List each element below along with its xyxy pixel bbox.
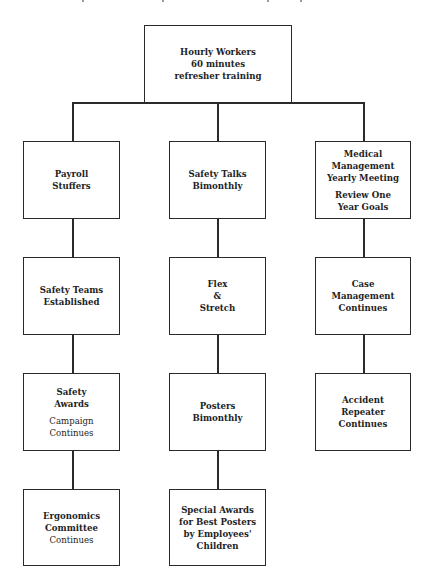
box-line: refresher training	[175, 70, 262, 82]
box-line: Accident	[342, 394, 384, 406]
box-text: Accident Repeater Continues	[339, 394, 388, 430]
box-line: Campaign	[49, 415, 93, 427]
connector-left-2-3	[72, 334, 74, 374]
box-line: 60 minutes	[191, 58, 245, 70]
box-text: Ergonomics Committee Continues	[43, 510, 100, 546]
connector-middle-1-2	[217, 218, 219, 258]
box-line: Stretch	[200, 302, 236, 314]
box-safety-awards: Safety Awards Campaign Continues	[23, 373, 120, 451]
box-line: Safety Teams	[40, 284, 103, 296]
box-medical-management: Medical Management Yearly Meeting Review…	[315, 141, 411, 219]
connector-horizontal-top	[72, 102, 365, 104]
box-special-awards: Special Awards for Best Posters by Emplo…	[169, 489, 266, 566]
box-line: Repeater	[341, 406, 385, 418]
box-line: Awards	[54, 398, 89, 410]
box-line: Bimonthly	[192, 412, 242, 424]
box-line: Management	[331, 290, 394, 302]
box-line: by Employees'	[183, 528, 251, 540]
connector-right-2-3	[363, 334, 365, 374]
box-line: Safety	[57, 386, 87, 398]
box-text: Safety Awards	[54, 386, 89, 410]
box-subtext: Campaign Continues	[49, 415, 93, 439]
connector-left-drop	[72, 102, 74, 142]
box-line: Continues	[339, 418, 388, 430]
root-box-text: Hourly Workers 60 minutes refresher trai…	[175, 46, 262, 82]
box-ergonomics-committee: Ergonomics Committee Continues	[23, 489, 120, 566]
box-line: Year Goals	[338, 201, 389, 213]
box-line: Special Awards	[181, 504, 254, 516]
box-line: Hourly Workers	[180, 46, 256, 58]
cropped-caption-fragment	[60, 0, 380, 4]
box-payroll-stuffers: Payroll Stuffers	[23, 141, 120, 219]
box-line: Ergonomics	[43, 510, 100, 522]
box-posters-bimonthly: Posters Bimonthly	[169, 373, 266, 451]
box-text: Safety Teams Established	[40, 284, 103, 308]
box-line: Payroll	[55, 168, 89, 180]
box-text: Posters Bimonthly	[192, 400, 242, 424]
box-line: Management	[331, 160, 394, 172]
box-line: Case	[352, 278, 375, 290]
box-line: Stuffers	[52, 180, 90, 192]
box-case-management: Case Management Continues	[315, 257, 411, 335]
box-line: Continues	[49, 427, 93, 439]
box-text: Special Awards for Best Posters by Emplo…	[179, 504, 256, 552]
box-safety-talks: Safety Talks Bimonthly	[169, 141, 266, 219]
connector-middle-drop	[217, 102, 219, 142]
box-line: Safety Talks	[188, 168, 246, 180]
box-text: Flex & Stretch	[200, 278, 236, 314]
box-line: Established	[43, 296, 99, 308]
box-line: &	[214, 290, 222, 302]
connector-middle-2-3	[217, 334, 219, 374]
box-text: Case Management Continues	[331, 278, 394, 314]
box-line: Review One	[335, 189, 391, 201]
box-line: Medical	[344, 148, 382, 160]
box-line: Committee	[45, 522, 98, 534]
connector-middle-3-4	[217, 450, 219, 490]
box-line: Continues	[339, 302, 388, 314]
box-line: Yearly Meeting	[327, 172, 399, 184]
box-line: Bimonthly	[192, 180, 242, 192]
connector-left-3-4	[72, 450, 74, 490]
box-subtext: Review One Year Goals	[335, 189, 391, 213]
box-line: Continues	[49, 534, 93, 546]
connector-left-1-2	[72, 218, 74, 258]
box-text: Payroll Stuffers	[52, 168, 90, 192]
box-text: Safety Talks Bimonthly	[188, 168, 246, 192]
box-line: Children	[197, 540, 239, 552]
box-text: Medical Management Yearly Meeting	[327, 148, 399, 184]
box-flex-stretch: Flex & Stretch	[169, 257, 266, 335]
root-box: Hourly Workers 60 minutes refresher trai…	[144, 25, 292, 103]
box-line: Flex	[208, 278, 228, 290]
box-line: for Best Posters	[179, 516, 256, 528]
box-line: Posters	[200, 400, 236, 412]
connector-right-drop	[363, 102, 365, 142]
box-safety-teams: Safety Teams Established	[23, 257, 120, 335]
box-accident-repeater: Accident Repeater Continues	[315, 373, 411, 451]
connector-right-1-2	[363, 218, 365, 258]
